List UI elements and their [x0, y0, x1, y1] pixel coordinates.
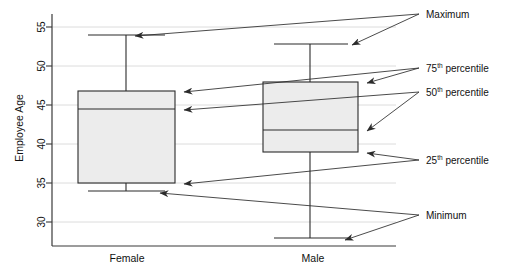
- y-axis-title: Employee Age: [13, 94, 25, 162]
- female-box-rect: [78, 91, 175, 183]
- annotation-p50-num: 50: [426, 87, 438, 98]
- boxplot-figure: 55 50 45 40 35 30 Employee Age: [0, 0, 509, 276]
- y-tick-labels: 55 50 45 40 35 30: [36, 21, 47, 228]
- y-tick-label-55: 55: [36, 21, 47, 33]
- leader-minimum-female: [160, 193, 419, 215]
- y-tick-label-40: 40: [36, 138, 47, 150]
- box-female: [78, 35, 175, 191]
- annotation-p75-num: 75: [426, 63, 438, 74]
- leader-p25-male: [367, 153, 419, 160]
- annotation-p50: 50th percentile: [426, 86, 489, 98]
- chart-canvas: 55 50 45 40 35 30 Employee Age: [0, 0, 509, 276]
- y-tick-label-35: 35: [36, 177, 47, 189]
- annotation-p25: 25th percentile: [426, 154, 489, 166]
- leader-p50-male: [367, 92, 419, 131]
- x-label-female: Female: [109, 252, 144, 264]
- annotation-p25-num: 25: [426, 155, 438, 166]
- annotation-p75: 75th percentile: [426, 62, 489, 74]
- annotation-p75-rest: percentile: [443, 63, 490, 74]
- male-box-rect: [263, 82, 358, 152]
- annotation-labels: Maximum 75th percentile 50th percentile …: [426, 9, 489, 221]
- annotation-minimum: Minimum: [426, 210, 467, 221]
- annotation-maximum: Maximum: [426, 9, 469, 20]
- y-tick-label-45: 45: [36, 99, 47, 111]
- leader-minimum-male: [345, 215, 419, 240]
- x-label-male: Male: [302, 252, 325, 264]
- y-tick-label-30: 30: [36, 216, 47, 228]
- annotation-p50-rest: percentile: [443, 87, 490, 98]
- annotation-p25-rest: percentile: [443, 155, 490, 166]
- y-tick-label-50: 50: [36, 60, 47, 72]
- leader-p25-female: [184, 160, 419, 184]
- leader-maximum-female: [135, 14, 419, 36]
